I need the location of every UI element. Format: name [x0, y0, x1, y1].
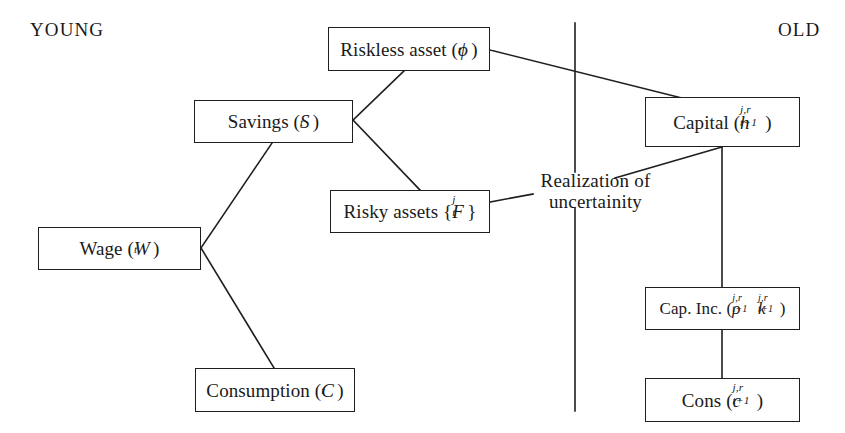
paren-open: (: [447, 39, 458, 60]
node-capital-label: Capital (hj,rt+1t+1): [673, 113, 772, 132]
node-cons-old-label: Cons (cj,rt+1t+1): [682, 391, 763, 410]
paren-open: (: [310, 380, 321, 401]
math-sup-2: j,r: [758, 293, 768, 303]
node-riskless-asset-label: Riskless asset (ϕtt): [340, 40, 477, 59]
math-F: Fjtt: [452, 202, 467, 221]
edge-risky-realization: [490, 194, 533, 202]
math-S: Stt: [300, 112, 313, 131]
math-W: Wtt: [134, 239, 153, 258]
math-phi: ϕtt: [458, 40, 471, 59]
paren-open: (: [721, 390, 732, 411]
node-wage-text: Wage: [79, 238, 122, 259]
math-h: hj,rt+1t+1: [740, 113, 765, 132]
period-label-old: OLD: [778, 20, 820, 39]
brace-open: {: [438, 201, 452, 222]
math-sup: j,r: [733, 382, 744, 393]
paren-close: ): [780, 299, 786, 318]
node-capital-income[interactable]: Cap. Inc. (ρj,rt+1t+1 kj,rt+1t+1): [645, 287, 800, 330]
node-consumption-text: Consumption: [206, 380, 310, 401]
node-capital-income-text: Cap. Inc.: [659, 299, 722, 318]
math-sub: t+1: [732, 304, 747, 314]
math-sub-2: t+1: [758, 304, 773, 314]
period-label-young: YOUNG: [30, 20, 104, 39]
paren-close: ): [313, 111, 319, 132]
node-savings[interactable]: Savings (Stt): [194, 100, 353, 143]
math-sup: j: [452, 194, 455, 205]
math-sub: t: [300, 117, 303, 128]
node-wage[interactable]: Wage (Wtt): [38, 227, 201, 270]
paren-close: ): [471, 39, 477, 60]
node-savings-text: Savings: [228, 111, 289, 132]
annotation-realization-of-uncertainty: Realization of uncertainity: [533, 170, 658, 213]
paren-open: (: [123, 238, 134, 259]
math-sub: t: [321, 385, 324, 396]
paren-open: (: [729, 112, 740, 133]
math-sup: j,r: [740, 104, 751, 115]
math-C: Ctt: [321, 381, 337, 400]
paren-close: ): [337, 380, 343, 401]
diagram-canvas: YOUNG OLD Riskless asset (ϕtt) Savings (…: [0, 0, 845, 433]
node-savings-label: Savings (Stt): [228, 112, 319, 131]
node-risky-assets-label: Risky assets {Fjtt}: [344, 202, 477, 221]
node-consumption-label: Consumption (Ctt): [206, 381, 343, 400]
edge-wage-savings: [201, 143, 272, 248]
node-riskless-asset[interactable]: Riskless asset (ϕtt): [328, 27, 490, 71]
node-risky-assets-text: Risky assets: [344, 201, 439, 222]
annotation-line-1: Realization of: [533, 170, 658, 191]
node-cons-old[interactable]: Cons (cj,rt+1t+1): [645, 378, 800, 422]
math-sub: t+1: [740, 117, 757, 128]
node-consumption[interactable]: Consumption (Ctt): [195, 368, 355, 412]
node-cons-old-text: Cons: [682, 390, 721, 411]
paren-close: ): [765, 112, 771, 133]
paren-close: ): [153, 238, 159, 259]
annotation-line-2: uncertainity: [533, 191, 658, 212]
node-capital-income-label: Cap. Inc. (ρj,rt+1t+1 kj,rt+1t+1): [659, 300, 785, 317]
paren-open: (: [722, 299, 732, 318]
math-rho: ρj,rt+1t+1: [732, 300, 754, 317]
math-sub: t: [134, 244, 137, 255]
edge-wage-consumption: [201, 248, 274, 368]
math-sub: t: [458, 44, 461, 55]
math-k: kj,rt+1t+1: [758, 300, 780, 317]
node-capital[interactable]: Capital (hj,rt+1t+1): [645, 97, 800, 147]
node-riskless-asset-text: Riskless asset: [340, 39, 446, 60]
paren-open: (: [289, 111, 300, 132]
math-c: cj,rt+1t+1: [733, 391, 757, 410]
math-sub: t+1: [733, 395, 750, 406]
math-sup: j,r: [732, 293, 742, 303]
node-capital-text: Capital: [673, 112, 729, 133]
edge-savings-riskless: [353, 71, 404, 120]
node-risky-assets[interactable]: Risky assets {Fjtt}: [330, 190, 490, 233]
paren-close: ): [757, 390, 763, 411]
edge-savings-risky: [353, 120, 420, 190]
brace-close: }: [467, 201, 476, 222]
node-wage-label: Wage (Wtt): [79, 239, 159, 258]
math-sub: t: [452, 207, 455, 218]
